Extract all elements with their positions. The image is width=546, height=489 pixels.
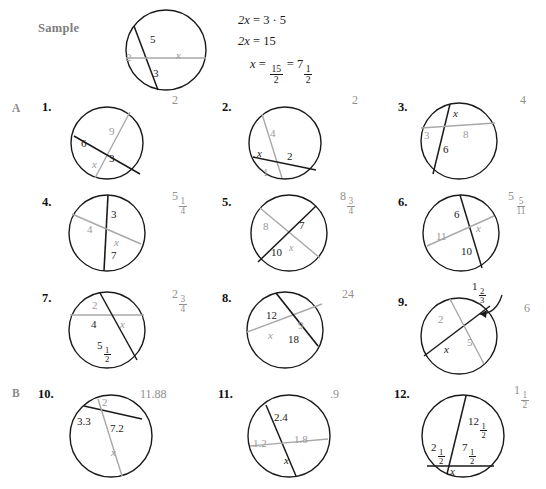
label-11-0: 2.4 <box>274 412 288 423</box>
label-12-1-denominator: 2 <box>438 457 445 466</box>
chord-dark <box>84 406 142 419</box>
chord-gray <box>98 399 122 476</box>
problem-number-4: 4. <box>42 196 51 209</box>
label-5-2: 10 <box>271 247 282 258</box>
label-5-1: 7 <box>299 220 305 231</box>
label-12-0: 1212 <box>468 416 488 440</box>
label-8-3: 18 <box>288 334 299 345</box>
circle-diagram-12 <box>418 390 508 482</box>
circle-diagram-3 <box>414 100 504 182</box>
answer-7-fraction: 3 4 <box>179 295 187 315</box>
label-12-2-fraction: 12 <box>469 448 476 466</box>
label-11-2: 1.8 <box>294 434 308 445</box>
label-6-2: 11 <box>436 231 447 242</box>
label-3-1: 3 <box>424 130 430 141</box>
label-12-3: x <box>450 466 455 477</box>
problem-number-7: 7. <box>42 292 51 305</box>
sample-circle-diagram <box>120 6 212 94</box>
label-1-0: 9 <box>109 126 115 137</box>
label-6-1: x <box>476 223 481 234</box>
label-8-0: 12 <box>266 310 277 321</box>
label-4-2: x <box>114 237 119 248</box>
chord-gray <box>95 112 130 178</box>
label-6-0: 6 <box>454 209 460 220</box>
eq3-mixed-whole: 7 <box>297 57 303 71</box>
label-sample-0: 5 <box>150 34 156 45</box>
sample-equation-line1: 2x = 3 · 5 <box>238 14 286 27</box>
chord-gray <box>247 304 322 332</box>
problem-answer-8: 24 <box>342 288 354 300</box>
label-9-1: x <box>444 344 449 355</box>
label-7-3-fraction: 12 <box>104 346 111 364</box>
sample-equation-line3: x = 15 2 = 7 1 2 <box>250 58 313 85</box>
label-7-0: 2 <box>92 300 98 311</box>
label-3-2: 8 <box>463 129 469 140</box>
problem-figure-11: 2.4 1.2 1.8 x <box>244 390 334 482</box>
label-3-0: x <box>453 108 458 119</box>
problem-number-12: 12. <box>394 388 410 401</box>
answer-12-whole: 1 <box>514 383 520 397</box>
answer-7-denominator: 4 <box>179 305 187 315</box>
label-10-2: 7.2 <box>110 423 124 434</box>
eq2-rhs: 15 <box>263 34 276 48</box>
label-6-3: 10 <box>461 246 472 257</box>
answer-12-fraction: 1 2 <box>521 391 529 411</box>
label-11-1: 1.2 <box>253 438 267 449</box>
callout-9-whole: 1 <box>472 280 478 292</box>
label-8-2: x <box>268 330 273 341</box>
label-2-2: 2 <box>287 151 293 162</box>
label-4-1: 4 <box>87 224 93 235</box>
label-7-3: 512 <box>97 340 112 364</box>
answer-5-denominator: 4 <box>347 207 355 217</box>
circle-diagram-5 <box>244 192 334 274</box>
label-12-2-denominator: 2 <box>469 457 476 466</box>
label-12-0-denominator: 2 <box>480 431 487 440</box>
eq2-lhs: 2x <box>238 34 250 48</box>
answer-6-denominator: 11 <box>515 207 527 217</box>
circle-outline <box>70 395 152 477</box>
eq1-lhs: 2x <box>238 13 250 27</box>
label-12-1-whole: 2 <box>431 441 437 453</box>
eq3-lhs: x <box>250 57 256 71</box>
circle-diagram-11 <box>244 390 334 482</box>
label-12-2: 712 <box>462 442 477 466</box>
label-sample-3: 3 <box>153 68 159 79</box>
circle-diagram-8 <box>240 288 330 372</box>
label-12-0-fraction: 12 <box>480 422 487 440</box>
label-10-0: 2 <box>102 397 108 408</box>
problem-number-9: 9. <box>398 296 407 309</box>
answer-5-whole: 8 <box>340 189 346 203</box>
label-12-2-whole: 7 <box>462 441 468 453</box>
answer-4-fraction: 1 4 <box>179 197 187 217</box>
label-8-1: 9 <box>298 320 304 331</box>
problem-figure-9: 2 x 5 <box>414 292 510 376</box>
eq3-mixed-fraction: 1 2 <box>304 64 312 85</box>
problem-figure-3: x 3 8 6 <box>414 100 504 182</box>
eq3-equals-1: = <box>259 57 266 71</box>
problem-answer-1: 2 <box>172 94 178 106</box>
problem-figure-2: 4 x 2 1 <box>240 104 330 182</box>
problem-number-11: 11. <box>218 388 233 401</box>
circle-outline <box>421 103 497 179</box>
problem-number-5: 5. <box>222 196 231 209</box>
label-9-2: 5 <box>467 337 473 348</box>
label-9-0: 2 <box>438 314 444 325</box>
eq3-fraction: 15 2 <box>270 64 283 85</box>
label-7-2: x <box>120 319 125 330</box>
problem-figure-8: 12 9 x 18 <box>240 288 330 372</box>
label-2-0: 4 <box>270 128 276 139</box>
label-5-3: x <box>289 243 293 253</box>
label-1-1: 6 <box>81 138 87 149</box>
answer-12-denominator: 2 <box>521 401 529 411</box>
answer-5-fraction: 3 4 <box>347 197 355 217</box>
problem-figure-6: 6 x 11 10 <box>416 192 506 274</box>
eq2-equals: = <box>253 34 260 48</box>
label-2-1: x <box>257 148 262 159</box>
label-7-3-whole: 5 <box>97 339 103 351</box>
eq1-rhs: 3 · 5 <box>263 13 286 27</box>
label-sample-1: 2 <box>126 52 132 63</box>
label-2-3: 1 <box>263 167 269 178</box>
label-1-2: x <box>92 159 97 170</box>
sample-figure: 5 2 x 3 <box>120 6 212 94</box>
problem-answer-6: 5 5 11 <box>508 190 528 217</box>
